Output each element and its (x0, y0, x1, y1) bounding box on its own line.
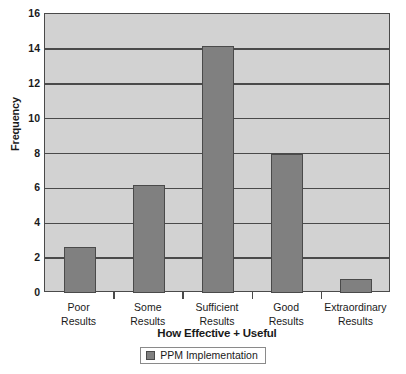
x-axis-tick (252, 292, 254, 299)
y-axis-tick-label: 8 (18, 148, 40, 159)
bar (133, 185, 165, 293)
y-axis-tick-label: 10 (18, 113, 40, 124)
bar (64, 247, 96, 293)
legend: PPM Implementation (0, 347, 406, 364)
bar-chart: Frequency 1614121086420 PoorResultsSomeR… (0, 0, 406, 374)
y-axis-tick-label: 16 (18, 8, 40, 19)
legend-label: PPM Implementation (160, 350, 257, 361)
x-axis-category-label: ExtraordinaryResults (311, 301, 400, 328)
y-axis-tick-label: 6 (18, 182, 40, 193)
category-label-line: Extraordinary (311, 301, 400, 315)
x-axis-title: How Effective + Useful (44, 327, 390, 339)
x-axis-tick (182, 292, 184, 299)
x-axis-tick (113, 292, 115, 299)
y-axis-tick-label: 12 (18, 78, 40, 89)
y-axis-tick-label: 14 (18, 43, 40, 54)
category-label-line: Results (311, 315, 400, 329)
y-axis-tick-label: 2 (18, 252, 40, 263)
bar (202, 46, 234, 293)
y-axis-tick-label: 4 (18, 217, 40, 228)
legend-swatch-icon (146, 351, 155, 360)
plot-area (44, 13, 390, 292)
bar (271, 154, 303, 294)
y-axis-tick-label: 0 (18, 287, 40, 298)
legend-item: PPM Implementation (140, 347, 265, 364)
x-axis-tick (321, 292, 323, 299)
bar (340, 279, 372, 293)
